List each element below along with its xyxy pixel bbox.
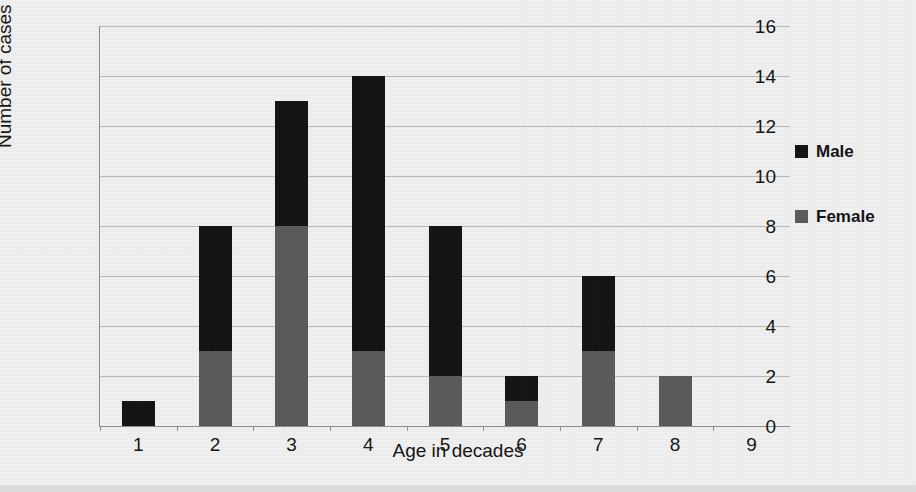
y-axis-tick-label: 14	[716, 67, 776, 86]
bar-stack[interactable]	[199, 226, 232, 426]
legend-swatch-male-icon	[795, 145, 808, 158]
bar-stack[interactable]	[429, 226, 462, 426]
bar-segment-male[interactable]	[275, 101, 308, 226]
legend-swatch-female-icon	[795, 210, 808, 223]
legend-label-male: Male	[816, 143, 854, 160]
bar-segment-female[interactable]	[505, 401, 538, 426]
legend-entry-male: Male	[795, 143, 854, 160]
bar-chart: 0246810121416 123456789 Number of cases …	[0, 0, 916, 492]
x-axis-tick	[253, 426, 254, 431]
bar-segment-male[interactable]	[505, 376, 538, 401]
bar-stack[interactable]	[505, 376, 538, 426]
y-axis-tick-label: 12	[716, 117, 776, 136]
bar-segment-female[interactable]	[352, 351, 385, 426]
bar-segment-male[interactable]	[199, 226, 232, 351]
y-axis-tick-label: 2	[716, 367, 776, 386]
x-axis-tick	[483, 426, 484, 431]
y-axis-tick-label: 16	[716, 17, 776, 36]
legend-entry-female: Female	[795, 208, 875, 225]
bar-stack[interactable]	[275, 101, 308, 426]
bar-segment-female[interactable]	[199, 351, 232, 426]
page-bottom-edge	[0, 485, 916, 492]
y-axis-tick-label: 10	[716, 167, 776, 186]
x-axis-line	[99, 426, 790, 427]
x-axis-tick	[637, 426, 638, 431]
gridline	[100, 126, 790, 127]
bar-segment-male[interactable]	[429, 226, 462, 376]
gridline	[100, 76, 790, 77]
bar-segment-female[interactable]	[659, 376, 692, 426]
bar-segment-male[interactable]	[582, 276, 615, 351]
x-axis-title: Age in decades	[0, 440, 916, 462]
bar-segment-female[interactable]	[429, 376, 462, 426]
legend-label-female: Female	[816, 208, 875, 225]
x-axis-tick	[713, 426, 714, 431]
y-axis-tick-label: 6	[716, 267, 776, 286]
bar-stack[interactable]	[659, 376, 692, 426]
y-axis-title: Number of cases	[0, 4, 16, 148]
gridline	[100, 176, 790, 177]
x-axis-tick	[177, 426, 178, 431]
bar-segment-female[interactable]	[275, 226, 308, 426]
bar-segment-female[interactable]	[582, 351, 615, 426]
bar-stack[interactable]	[122, 401, 155, 426]
bar-segment-male[interactable]	[122, 401, 155, 426]
y-axis-tick-label: 8	[716, 217, 776, 236]
bar-segment-male[interactable]	[352, 76, 385, 351]
y-axis-line	[99, 26, 100, 426]
bar-stack[interactable]	[582, 276, 615, 426]
plot-area: 0246810121416 123456789	[100, 26, 790, 426]
gridline	[100, 26, 790, 27]
bar-stack[interactable]	[352, 76, 385, 426]
x-axis-tick	[330, 426, 331, 431]
x-axis-tick	[560, 426, 561, 431]
x-axis-tick	[100, 426, 101, 431]
x-axis-tick	[407, 426, 408, 431]
y-axis-tick-label: 4	[716, 317, 776, 336]
